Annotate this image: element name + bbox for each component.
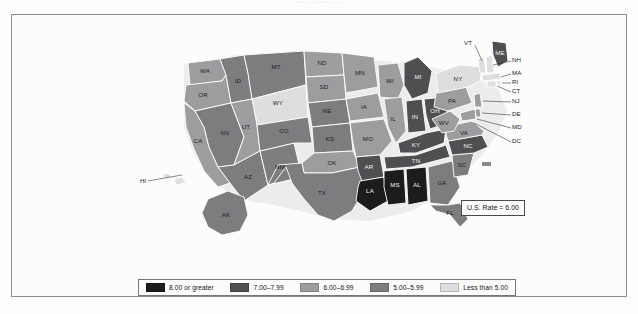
callout-CT: CT [512, 87, 520, 94]
callout-MD: MD [512, 123, 522, 130]
label-IL: IL [390, 115, 396, 122]
label-CA: CA [194, 137, 204, 144]
legend-item-3: 5.00–5.99 [370, 283, 423, 292]
label-KS: KS [326, 135, 335, 142]
legend-label-4: Less than 5.00 [463, 284, 508, 291]
figure-page: — — — — [0, 0, 638, 314]
label-MN: MN [355, 69, 365, 76]
legend-item-1: 7.00–7.99 [230, 283, 283, 292]
label-FL: FL [446, 209, 454, 216]
label-TX: TX [318, 189, 326, 196]
legend-swatch-3 [370, 283, 389, 292]
legend-swatch-1 [230, 283, 249, 292]
figure-frame-inner: WA OR CA NV ID MT WY UT AZ NM CO ND SD N… [12, 15, 626, 296]
label-OK: OK [327, 159, 337, 166]
legend-swatch-2 [300, 283, 319, 292]
legend-label-1: 7.00–7.99 [253, 284, 283, 291]
label-WY: WY [273, 99, 283, 106]
label-WI: WI [386, 77, 394, 84]
label-AZ: AZ [244, 173, 252, 180]
map-svg: WA OR CA NV ID MT WY UT AZ NM CO ND SD N… [12, 15, 626, 296]
state-NH [486, 55, 494, 73]
callout-NH: NH [512, 56, 521, 63]
leader-MA [501, 74, 511, 77]
us-rate-text: U.S. Rate = 6.00 [467, 204, 519, 211]
label-WA: WA [200, 67, 211, 74]
label-MT: MT [271, 63, 280, 70]
label-AR: AR [365, 163, 374, 170]
label-TN: TN [412, 157, 421, 164]
label-ND: ND [317, 59, 327, 66]
legend-label-2: 6.00–6.99 [323, 284, 353, 291]
label-CO: CO [279, 127, 289, 134]
label-AK: AK [222, 211, 231, 218]
label-NV: NV [221, 129, 231, 136]
label-NM: NM [275, 163, 285, 170]
label-ME: ME [495, 49, 505, 56]
state-RI [497, 81, 501, 85]
map-legend: 8.00 or greater 7.00–7.99 6.00–6.99 5.00… [138, 279, 516, 296]
label-UT: UT [242, 123, 251, 130]
legend-item-2: 6.00–6.99 [300, 283, 353, 292]
callout-RI: RI [512, 78, 518, 85]
label-OH: OH [430, 107, 440, 114]
label-MO: MO [363, 135, 373, 142]
label-NC: NC [463, 142, 473, 149]
label-PA: PA [448, 97, 457, 104]
us-rate-annotation: U.S. Rate = 6.00 [461, 200, 525, 216]
label-MI: MI [414, 73, 421, 80]
legend-swatch-4 [440, 283, 459, 292]
callout-DE: DE [512, 110, 521, 117]
legend-label-0: 8.00 or greater [169, 284, 214, 291]
us-choropleth-map: WA OR CA NV ID MT WY UT AZ NM CO ND SD N… [12, 15, 626, 296]
state-MA [482, 73, 501, 81]
label-HI: HI [140, 177, 146, 184]
dc-swatch [482, 162, 491, 166]
label-GA: GA [437, 179, 447, 186]
label-NY: NY [454, 75, 463, 82]
callout-NJ: NJ [512, 97, 520, 104]
label-WV: WV [439, 119, 450, 126]
label-MS: MS [390, 181, 400, 188]
state-HI-isles [174, 177, 186, 185]
label-NE: NE [323, 107, 332, 114]
callout-MA: MA [512, 69, 522, 76]
callout-DC: DC [512, 137, 521, 144]
leader-CT [497, 86, 511, 92]
clipped-title: — — — — [0, 0, 638, 11]
label-SD: SD [320, 83, 329, 90]
figure-frame: WA OR CA NV ID MT WY UT AZ NM CO ND SD N… [11, 14, 627, 297]
legend-item-0: 8.00 or greater [146, 283, 214, 292]
callout-VT: VT [464, 39, 472, 46]
label-IA: IA [361, 103, 368, 110]
legend-label-3: 5.00–5.99 [393, 284, 423, 291]
label-SC: SC [458, 161, 467, 168]
label-OR: OR [198, 91, 208, 98]
label-ID: ID [235, 77, 242, 84]
legend-swatch-0 [146, 283, 165, 292]
label-IN: IN [412, 113, 419, 120]
legend-item-4: Less than 5.00 [440, 283, 508, 292]
label-VA: VA [460, 129, 469, 136]
label-AL: AL [413, 181, 421, 188]
label-LA: LA [366, 187, 375, 194]
label-KY: KY [412, 141, 421, 148]
state-CT [487, 81, 496, 87]
